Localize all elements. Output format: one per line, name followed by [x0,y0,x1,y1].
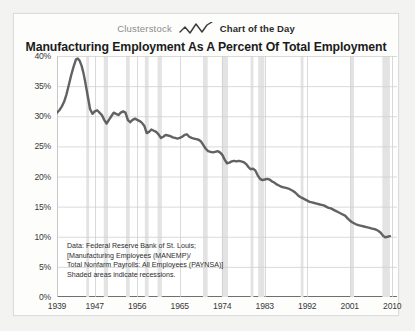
brand-name: Clusterstock [117,23,172,34]
y-axis-tick-label: 25% [17,141,51,151]
y-axis-tick-label: 10% [17,232,51,242]
x-axis-tick-label: 1974 [202,301,242,311]
y-axis-tick-label: 20% [17,172,51,182]
y-axis-tick-label: 30% [17,111,51,121]
annotation-line: Data: Federal Reserve Bank of St. Louis; [67,242,223,252]
x-axis-tick-label: 2001 [330,301,370,311]
recession-band [382,56,390,297]
y-axis-tick-label: 5% [17,262,51,272]
source-annotation: Data: Federal Reserve Bank of St. Louis;… [67,242,223,280]
zigzag-line-icon [179,22,213,35]
chart-card: Clusterstock Chart of the Day Manufactur… [13,13,399,316]
x-axis-tick-label: 2010 [372,301,412,311]
recession-band [301,56,304,297]
annotation-line: Total Nonfarm Payrolls: All Employees (P… [67,261,223,271]
annotation-line: [Manufacturing Employees (MANEMP)/ [67,252,223,262]
x-axis-tick-label: 1983 [245,301,285,311]
x-axis-tick-label: 1939 [37,301,77,311]
y-axis-tick-label: 35% [17,81,51,91]
y-axis-tick-label: 40% [17,51,51,61]
recession-band [351,56,354,297]
recession-band [251,56,254,297]
x-axis-tick-label: 1956 [117,301,157,311]
page-title: Manufacturing Employment As A Percent Of… [14,40,398,54]
x-axis-tick-label: 1965 [160,301,200,311]
brand-tagline: Chart of the Day [220,23,295,34]
x-axis-tick-label: 1992 [287,301,327,311]
annotation-line: Shaded areas indicate recessions. [67,271,223,281]
y-axis-tick-label: 15% [17,202,51,212]
x-axis-tick-label: 1947 [75,301,115,311]
brand-header: Clusterstock Chart of the Day [14,18,398,38]
